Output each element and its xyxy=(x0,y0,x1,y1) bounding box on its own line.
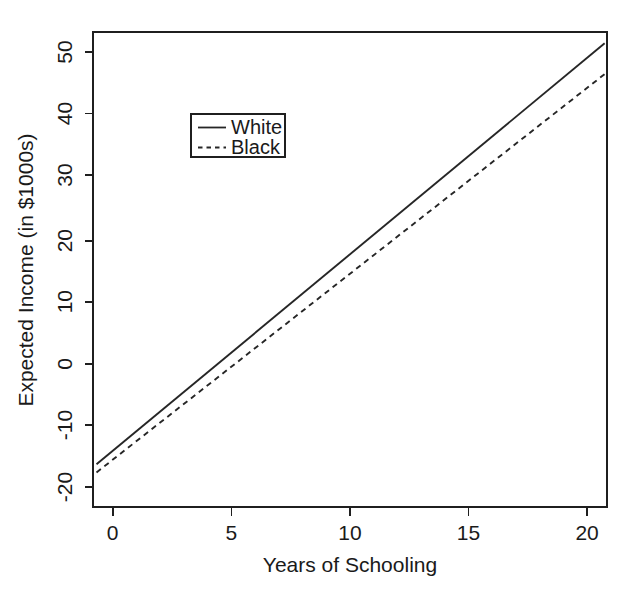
x-tick-label-20: 20 xyxy=(575,521,598,544)
x-tick-label-5: 5 xyxy=(225,521,237,544)
series-line-black xyxy=(96,74,604,472)
chart-canvas: 50 40 30 20 10 0 -10 -20 0 5 10 15 20 Ye… xyxy=(0,0,636,595)
data-series-group xyxy=(96,43,604,472)
y-axis-title: Expected Income (in $1000s) xyxy=(14,133,37,406)
y-tick-label-20: 20 xyxy=(53,229,76,252)
y-tick-label-30: 30 xyxy=(53,163,76,186)
series-line-white xyxy=(96,43,604,464)
y-tick-label-40: 40 xyxy=(53,102,76,125)
legend-label-white: White xyxy=(231,116,282,138)
y-tick-label-0: 0 xyxy=(53,358,76,370)
y-axis-tick-labels: 50 40 30 20 10 0 -10 -20 xyxy=(53,40,76,502)
legend[interactable]: White Black xyxy=(191,114,285,158)
x-axis-tick-labels: 0 5 10 15 20 xyxy=(107,521,599,544)
x-tick-label-10: 10 xyxy=(338,521,361,544)
plot-frame xyxy=(93,32,607,507)
x-axis-ticks xyxy=(113,507,587,516)
y-tick-label-10: 10 xyxy=(53,290,76,313)
x-axis-title: Years of Schooling xyxy=(263,553,437,576)
chart-figure: 50 40 30 20 10 0 -10 -20 0 5 10 15 20 Ye… xyxy=(0,0,636,595)
y-tick-label-neg10: -10 xyxy=(53,410,76,440)
y-axis-ticks xyxy=(85,52,93,487)
y-tick-label-50: 50 xyxy=(53,40,76,63)
y-tick-label-neg20: -20 xyxy=(53,472,76,502)
legend-label-black: Black xyxy=(231,136,281,158)
x-tick-label-0: 0 xyxy=(107,521,119,544)
x-tick-label-15: 15 xyxy=(457,521,480,544)
